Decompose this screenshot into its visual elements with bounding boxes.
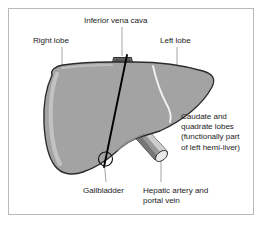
label-hepatic-artery-portal-vein: Hepatic artery and portal vein (143, 186, 221, 206)
label-gallbladder: Gallbladder (83, 186, 124, 196)
label-caudate-line-1: Caudate and (181, 112, 259, 122)
label-right-lobe: Right lobe (33, 36, 69, 46)
label-caudate-line-3: (functionally part (181, 132, 259, 142)
label-caudate-quadrate-lobes: Caudate and quadrate lobes (functionally… (181, 112, 259, 153)
label-caudate-line-4: of left hemi-liver) (181, 143, 259, 153)
ivc-rim (114, 59, 131, 62)
liver-anatomy-figure: Inferior vena cava Right lobe Left lobe … (0, 0, 264, 234)
label-hepatic-line-1: Hepatic artery and (143, 186, 221, 196)
label-caudate-line-2: quadrate lobes (181, 122, 259, 132)
label-left-lobe: Left lobe (160, 36, 191, 46)
label-inferior-vena-cava: Inferior vena cava (84, 16, 147, 26)
label-hepatic-line-2: portal vein (143, 196, 221, 206)
